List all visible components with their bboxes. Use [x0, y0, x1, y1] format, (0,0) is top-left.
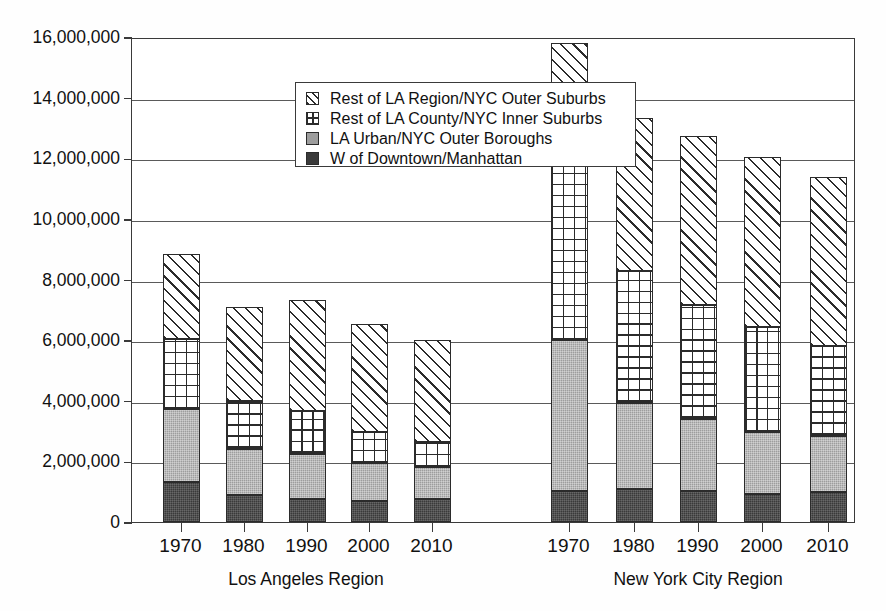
x-axis-group-label: Los Angeles Region [162, 569, 450, 589]
bar-segment [351, 432, 388, 463]
bar-segment [289, 300, 326, 411]
bar-segment [680, 491, 717, 522]
x-axis-tick-mark [432, 523, 433, 532]
bar-segment [810, 177, 847, 346]
x-axis-group-label: New York City Region [550, 569, 846, 589]
stacked-bar [226, 307, 263, 522]
bar-segment [226, 401, 263, 449]
y-axis-tick-label: 6,000,000 [8, 332, 120, 350]
bar-segment [744, 327, 781, 432]
bar-segment [351, 501, 388, 522]
legend-item-label: Rest of LA Region/NYC Outer Suburbs [330, 90, 606, 108]
legend-item: W of Downtown/Manhattan [306, 149, 627, 168]
y-axis-tick-label: 0 [8, 514, 120, 532]
bar-segment [226, 307, 263, 401]
bar-segment [744, 494, 781, 522]
bar-segment [616, 403, 653, 489]
bar-segment [680, 136, 717, 305]
bar-segment [744, 157, 781, 327]
stacked-bar [680, 136, 717, 522]
stacked-bar [163, 254, 200, 522]
stacked-bar [414, 340, 451, 522]
bar-segment [810, 492, 847, 522]
bar-segment [289, 411, 326, 454]
bar-segment [163, 482, 200, 522]
legend-swatch-icon [306, 112, 319, 125]
y-axis-tick-label: 14,000,000 [8, 90, 120, 108]
bar-segment [351, 463, 388, 501]
stacked-bar [289, 300, 326, 522]
bar-segment [616, 271, 653, 403]
x-axis-tick-mark [369, 523, 370, 532]
stacked-bar [351, 324, 388, 522]
bar-segment [744, 432, 781, 494]
y-axis-tick-label: 12,000,000 [8, 150, 120, 168]
chart-figure: 02,000,0004,000,0006,000,0008,000,00010,… [0, 0, 886, 611]
x-axis-tick-mark [569, 523, 570, 532]
legend-item-label: Rest of LA County/NYC Inner Suburbs [330, 110, 602, 128]
x-axis-tick-mark [181, 523, 182, 532]
x-axis-tick-mark [762, 523, 763, 532]
legend-item-label: W of Downtown/Manhattan [330, 150, 522, 168]
bar-segment [616, 489, 653, 522]
bar-segment [163, 409, 200, 482]
x-axis-tick-label: 2000 [727, 535, 797, 557]
bar-segment [551, 491, 588, 522]
bar-segment [289, 499, 326, 522]
x-axis-tick-mark [698, 523, 699, 532]
x-axis-tick-label: 1990 [272, 535, 342, 557]
legend-swatch-icon [306, 132, 319, 145]
stacked-bar [810, 177, 847, 522]
bar-segment [163, 339, 200, 409]
plot-area: Rest of LA Region/NYC Outer SuburbsRest … [131, 38, 855, 523]
legend-swatch-icon [306, 92, 319, 105]
bar-segment [414, 499, 451, 522]
x-axis-tick-label: 2000 [334, 535, 404, 557]
x-axis-tick-mark [828, 523, 829, 532]
legend-swatch-icon [306, 152, 319, 165]
bar-segment [351, 324, 388, 432]
legend-item: LA Urban/NYC Outer Boroughs [306, 129, 627, 148]
x-axis-tick-label: 1980 [209, 535, 279, 557]
y-axis-tick-label: 16,000,000 [8, 29, 120, 47]
bar-segment [551, 159, 588, 340]
bar-segment [226, 495, 263, 522]
legend-item: Rest of LA County/NYC Inner Suburbs [306, 109, 627, 128]
x-axis-tick-label: 1970 [534, 535, 604, 557]
y-axis-tick-label: 8,000,000 [8, 272, 120, 290]
y-axis-tick-label: 10,000,000 [8, 211, 120, 229]
x-axis-tick-mark [634, 523, 635, 532]
bar-segment [414, 442, 451, 467]
bar-segment [414, 467, 451, 499]
bar-segment [680, 419, 717, 491]
stacked-bar [744, 157, 781, 522]
bar-segment [414, 340, 451, 442]
x-axis-tick-mark [244, 523, 245, 532]
bar-segment [289, 454, 326, 499]
bar-segment [226, 449, 263, 495]
chart-legend: Rest of LA Region/NYC Outer SuburbsRest … [295, 82, 636, 167]
bar-segment [163, 254, 200, 339]
bar-segment [810, 346, 847, 436]
y-axis-tick-label: 2,000,000 [8, 453, 120, 471]
x-axis-tick-mark [307, 523, 308, 532]
bar-segment [810, 436, 847, 492]
bar-segment [551, 340, 588, 491]
legend-item-label: LA Urban/NYC Outer Boroughs [330, 130, 552, 148]
stacked-bar [616, 118, 653, 522]
x-axis-tick-label: 2010 [793, 535, 863, 557]
x-axis-tick-label: 1970 [146, 535, 216, 557]
x-axis-tick-label: 2010 [397, 535, 467, 557]
x-axis-tick-label: 1990 [663, 535, 733, 557]
legend-item: Rest of LA Region/NYC Outer Suburbs [306, 89, 627, 108]
bar-segment [680, 305, 717, 419]
y-axis-tick-label: 4,000,000 [8, 393, 120, 411]
x-axis-tick-label: 1980 [599, 535, 669, 557]
